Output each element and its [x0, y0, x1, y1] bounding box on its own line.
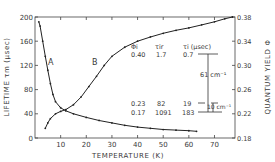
x-tick-label: 50	[159, 141, 168, 149]
lifetime-quantum-yield-chart: 04080120160200 0.180.220.260.300.340.38 …	[0, 0, 275, 162]
table-cell: 1.7	[156, 51, 166, 59]
x-tick-label: 60	[184, 141, 193, 149]
right-tick-label: 0.26	[237, 86, 251, 94]
curve-a-lifetime	[39, 22, 197, 132]
table-cell: 0.7	[183, 51, 193, 59]
table-cell: 19	[183, 100, 191, 108]
energy-gap-61-label: 61 cm⁻¹	[200, 71, 227, 79]
table-header-tau-ir: τir	[155, 43, 164, 51]
x-tick-label: 70	[210, 141, 219, 149]
energy-gap-10-label: 10 cm⁻¹	[207, 103, 232, 110]
x-tick-label: 10	[56, 141, 65, 149]
right-axis-label: QUANTUM YIELD Φ	[264, 39, 272, 114]
left-tick-label: 0	[29, 135, 33, 143]
left-axis-label: LIFETIME τm (μsec)	[3, 37, 11, 116]
left-tick-label: 160	[20, 38, 33, 46]
right-tick-label: 0.18	[237, 135, 251, 143]
right-tick-label: 0.34	[237, 38, 251, 46]
left-tick-label: 200	[20, 14, 33, 22]
curve-b-label: B	[92, 58, 98, 67]
x-tick-label: 40	[133, 141, 142, 149]
table-cell: 0.17	[131, 109, 145, 117]
x-tick-label: 20	[82, 141, 91, 149]
left-tick-label: 80	[24, 86, 33, 94]
table-header-phi: Φi	[131, 43, 138, 51]
x-tick-label: 30	[107, 141, 116, 149]
right-tick-label: 0.38	[237, 14, 251, 22]
table-cell: 82	[157, 100, 165, 108]
curve-a-label: A	[48, 58, 54, 67]
x-axis-label: TEMPERATURE (K)	[91, 152, 164, 160]
left-tick-label: 120	[20, 62, 33, 70]
table-cell: 1091	[155, 109, 172, 117]
x-axis-ticks: 10203040506070	[56, 17, 219, 149]
table-cell: 0.40	[131, 51, 145, 59]
right-tick-label: 0.22	[237, 110, 251, 118]
table-cell: 183	[182, 109, 194, 117]
right-tick-label: 0.30	[237, 62, 251, 70]
table-cell: 0.23	[131, 100, 145, 108]
table-header-tau-i: τi (μsec)	[183, 43, 211, 51]
left-tick-label: 40	[24, 110, 33, 118]
